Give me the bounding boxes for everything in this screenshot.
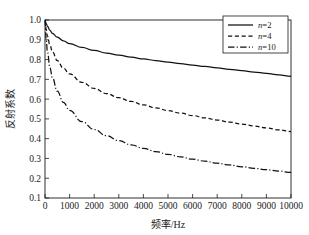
y-tick-label: 0.5: [29, 114, 41, 124]
legend: n=2n=4n=10: [223, 16, 288, 53]
x-axis-ticks: [45, 194, 291, 198]
line-chart: 0100020003000400050006000700080009000100…: [0, 0, 309, 235]
y-tick-label: 0.3: [29, 154, 41, 164]
y-tick-label: 0.9: [29, 35, 41, 45]
legend-label-2: n=10: [258, 42, 276, 52]
x-axis-label: 频率/Hz: [151, 218, 186, 230]
y-tick-label: 1.0: [29, 15, 41, 25]
x-axis-tick-labels: 0100020003000400050006000700080009000100…: [43, 201, 304, 211]
x-tick-label: 6000: [183, 201, 202, 211]
x-tick-label: 4000: [134, 201, 153, 211]
x-tick-label: 1000: [60, 201, 79, 211]
x-tick-label: 7000: [208, 201, 227, 211]
x-tick-label: 3000: [109, 201, 128, 211]
figure-canvas: 0100020003000400050006000700080009000100…: [0, 0, 309, 235]
y-tick-label: 0.2: [29, 174, 41, 184]
y-tick-label: 0.8: [29, 55, 41, 65]
x-tick-label: 9000: [257, 201, 276, 211]
x-tick-label: 0: [43, 201, 48, 211]
legend-label-1: n=4: [258, 31, 272, 41]
y-axis-tick-labels: 0.10.20.30.40.50.60.70.80.91.0: [29, 15, 41, 203]
x-tick-label: 8000: [232, 201, 251, 211]
x-tick-label: 5000: [159, 201, 178, 211]
legend-label-0: n=2: [258, 20, 271, 30]
x-tick-label: 2000: [85, 201, 104, 211]
y-tick-label: 0.4: [29, 134, 41, 144]
y-axis-label: 反射系数: [4, 89, 16, 129]
y-tick-label: 0.6: [29, 95, 41, 105]
y-tick-label: 0.1: [29, 193, 41, 203]
x-tick-label: 10000: [279, 201, 303, 211]
y-tick-label: 0.7: [29, 75, 41, 85]
